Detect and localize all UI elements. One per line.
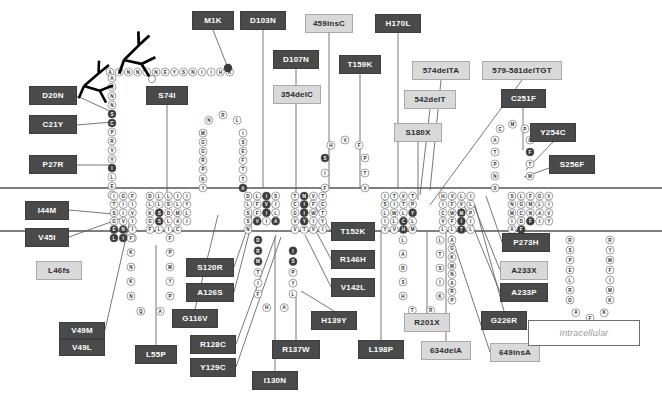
residue-letter: P xyxy=(110,130,113,135)
residue-letter: T xyxy=(460,227,463,232)
residue-letter: I xyxy=(132,219,133,224)
mutation-label-r146h[interactable]: R146H xyxy=(331,250,375,269)
residue-letter: Y xyxy=(201,186,204,191)
residue-letter: T xyxy=(242,177,245,182)
mutation-label-354delc[interactable]: 354delC xyxy=(273,85,321,104)
residue-letter: I xyxy=(470,219,471,224)
mutation-label-v49l[interactable]: V49L xyxy=(59,339,105,356)
mutation-label-p27r[interactable]: P27R xyxy=(29,155,77,174)
residue-letter: E xyxy=(112,227,115,232)
mutation-label-i130n[interactable]: I130N xyxy=(252,371,298,390)
mutation-label-y254c[interactable]: Y254C xyxy=(530,123,576,142)
mutation-label-459insc[interactable]: 459insC xyxy=(305,14,353,33)
mutation-label-a126s[interactable]: A126S xyxy=(186,283,234,302)
residue-letter: F xyxy=(529,219,532,224)
mutation-label-574delta[interactable]: 574delTA xyxy=(412,61,470,80)
residue-letter: I xyxy=(132,202,133,207)
residue-letter: T xyxy=(411,194,414,199)
mutation-label-h170l[interactable]: H170L xyxy=(375,14,421,33)
residue-letter: G xyxy=(112,219,116,224)
residue-letter: I xyxy=(123,236,124,241)
mutation-label-t159k[interactable]: T159K xyxy=(339,55,381,74)
residue-letter: I xyxy=(113,194,114,199)
mutation-label-v49m[interactable]: V49M xyxy=(59,322,105,339)
mutation-label-s120r[interactable]: S120R xyxy=(186,258,234,277)
mutation-label-g116v[interactable]: G116V xyxy=(172,309,218,328)
residue-letter: T xyxy=(294,194,297,199)
mutation-label-h139y[interactable]: H139Y xyxy=(311,311,357,330)
residue-letter: I xyxy=(470,194,471,199)
residue-letter: E xyxy=(568,268,571,273)
residue-letter: E xyxy=(164,70,167,75)
glycosylation-icon xyxy=(74,59,115,106)
residue-letter: S xyxy=(568,248,571,253)
mutation-label-i44m[interactable]: I44M xyxy=(25,201,69,220)
residue-letter: E xyxy=(241,149,244,154)
residue-letter: S xyxy=(274,194,277,199)
mutation-label-v45i[interactable]: V45I xyxy=(25,228,69,247)
residue-letter: Y xyxy=(303,219,306,224)
residue-letter: L xyxy=(158,194,161,199)
mutation-label-c21y[interactable]: C21Y xyxy=(29,115,77,134)
residue-letter: Y xyxy=(291,281,294,286)
mutation-label-v142l[interactable]: V142L xyxy=(331,278,375,297)
residue-letter: L xyxy=(176,202,179,207)
residue-letter: I xyxy=(186,219,187,224)
residue-letter: T xyxy=(303,227,306,232)
mutation-label-542delt[interactable]: 542delT xyxy=(404,90,456,109)
mutation-label-634dela[interactable]: 634delA xyxy=(421,341,471,360)
residue-letter: G xyxy=(201,140,205,145)
residue-letter: T xyxy=(257,270,260,275)
residue-letter: I xyxy=(394,202,395,207)
mutation-label-r128c[interactable]: R128C xyxy=(190,335,236,354)
mutation-label-p273h[interactable]: P273H xyxy=(502,233,550,252)
residue-letter: M xyxy=(528,202,532,207)
region-label-intracellular: Intracellular xyxy=(528,320,640,346)
mutation-label-l46fs[interactable]: L46fs xyxy=(36,261,82,280)
residue-letter: L xyxy=(520,194,523,199)
mutation-label-579-581deltgt[interactable]: 579-581delTGT xyxy=(482,61,562,80)
residue-letter: S xyxy=(110,112,113,117)
residue-letter: L xyxy=(113,236,116,241)
residue-letter: I xyxy=(201,70,202,75)
residue-letter: L xyxy=(411,219,414,224)
residue-letter: S xyxy=(510,194,513,199)
residue-letter: I xyxy=(313,219,314,224)
mutation-label-s256f[interactable]: S256F xyxy=(549,155,595,174)
residue-letter: T xyxy=(529,162,532,167)
residue-letter: P xyxy=(411,202,414,207)
mutation-label-r137w[interactable]: R137W xyxy=(272,340,320,359)
residue-letter: I xyxy=(257,281,258,286)
mutation-label-y129c[interactable]: Y129C xyxy=(190,358,236,377)
residue-letter: L xyxy=(384,211,387,216)
residue-letter: M xyxy=(168,265,172,270)
mutation-label-s74i[interactable]: S74I xyxy=(146,86,188,105)
mutation-label-d20n[interactable]: D20N xyxy=(29,86,77,105)
residue-letter: L xyxy=(149,202,152,207)
mutation-label-d107n[interactable]: D107N xyxy=(273,50,319,69)
mutation-label-r201x[interactable]: R201X xyxy=(404,313,450,332)
residue-letter: L xyxy=(469,227,472,232)
residue-letter: I xyxy=(132,227,133,232)
mutation-label-a233x[interactable]: A233X xyxy=(500,261,548,280)
residue-letter: F xyxy=(169,236,172,241)
mutation-label-g226r[interactable]: G226R xyxy=(481,311,527,330)
residue-letter: M xyxy=(528,174,532,179)
mutation-label-s180x[interactable]: S180X xyxy=(394,123,442,142)
residue-letter: T xyxy=(393,194,396,199)
mutation-label-l198p[interactable]: L198P xyxy=(358,340,404,359)
mutation-label-d103n[interactable]: D103N xyxy=(240,11,286,30)
mutation-label-c251f[interactable]: C251F xyxy=(501,89,546,108)
residue-letter: L xyxy=(185,211,188,216)
residue-letter: I xyxy=(211,70,212,75)
residue-letter: G xyxy=(450,246,454,251)
residue-letter: I xyxy=(266,211,267,216)
residue-letter: S xyxy=(167,202,170,207)
mutation-label-m1k[interactable]: M1K xyxy=(192,11,234,30)
mutation-label-t152k[interactable]: T152K xyxy=(331,222,375,241)
residue-letter: L xyxy=(158,202,161,207)
residue-letter: G xyxy=(121,194,125,199)
mutation-label-l55p[interactable]: L55P xyxy=(135,345,177,364)
mutation-label-a233p[interactable]: A233P xyxy=(500,283,548,302)
residue-letter: S xyxy=(291,259,294,264)
